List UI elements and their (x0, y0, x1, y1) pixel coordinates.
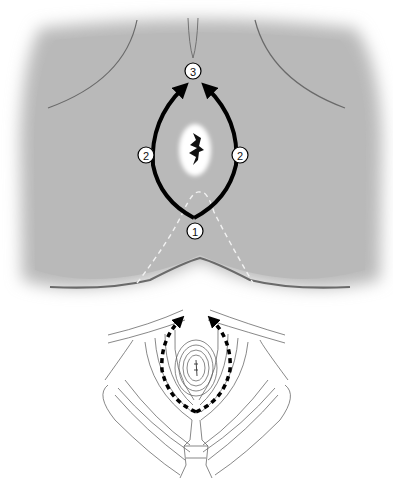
step-3-badge: 3 (185, 63, 201, 79)
anal-ring-2 (179, 345, 213, 391)
muscle-lobe-left (103, 340, 180, 475)
anal-opening-icon (194, 360, 198, 376)
muscle-fibers-left (115, 380, 190, 460)
muscle-band-left-2 (108, 320, 185, 343)
muscle-band-right (210, 310, 285, 335)
anal-ring-4 (187, 355, 205, 381)
step-2-right-label: 2 (237, 150, 243, 162)
step-1-badge: 1 (187, 223, 203, 239)
step-2-right-badge: 2 (232, 147, 248, 163)
upper-panel: 3 2 2 1 (20, 18, 382, 288)
step-3-label: 3 (190, 66, 196, 78)
diagram-canvas: 3 2 2 1 (0, 0, 393, 493)
step-2-left-label: 2 (143, 150, 149, 162)
muscle-fibers-right (203, 380, 278, 460)
lower-panel (103, 310, 291, 478)
step-2-left-badge: 2 (138, 147, 154, 163)
step-1-label: 1 (192, 226, 198, 238)
muscle-lobe-right (215, 340, 290, 475)
muscle-band-left (108, 310, 183, 335)
anal-ring-1 (175, 340, 217, 396)
